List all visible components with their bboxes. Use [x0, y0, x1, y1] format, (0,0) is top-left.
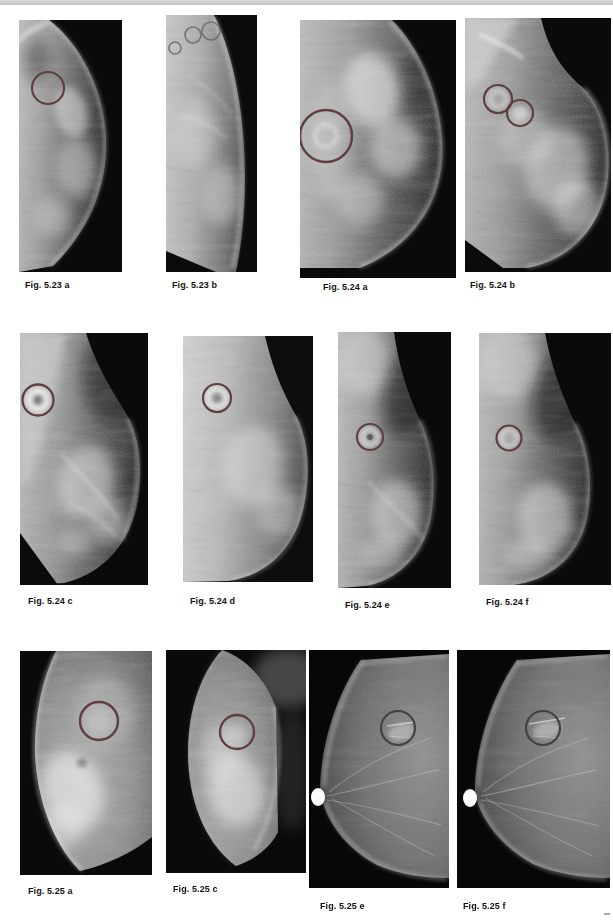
page-edge-mark	[604, 913, 610, 915]
figure-caption: Fig. 5.23 b	[172, 280, 217, 290]
figure-caption: Fig. 5.24 b	[470, 280, 515, 290]
figure-5-23b	[166, 15, 257, 272]
figure-caption: Fig. 5.25 e	[320, 901, 365, 911]
mammogram-5-24a-image	[300, 20, 456, 278]
figure-5-25a	[20, 651, 152, 875]
lesion-center	[34, 396, 42, 404]
figure-5-24c	[20, 333, 148, 585]
caption-text: Fig. 5.25 c	[173, 884, 218, 894]
caption-text: Fig. 5.25 a	[28, 886, 73, 896]
figure-caption: Fig. 5.25 c	[173, 884, 218, 894]
caption-text: Fig. 5.24 f	[486, 597, 529, 607]
mammogram-5-24b-image	[465, 18, 611, 272]
book-page: Fig. 5.23 a Fig. 5.23 b Fig. 5.24 a Fig.…	[0, 0, 613, 924]
figure-caption: Fig. 5.24 d	[190, 596, 235, 606]
figure-caption: Fig. 5.23 a	[25, 280, 70, 290]
caption-text: Fig. 5.24 c	[28, 596, 73, 606]
figure-5-25f	[457, 650, 610, 888]
mammogram-5-24e-image	[338, 332, 451, 588]
caption-text: Fig. 5.25 e	[320, 901, 365, 911]
figure-caption: Fig. 5.24 e	[345, 600, 390, 610]
lesion-center	[367, 434, 373, 440]
caption-text: Fig. 5.23 a	[25, 280, 70, 290]
caption-text: Fig. 5.25 f	[463, 901, 506, 911]
lesion-highlight	[226, 724, 248, 744]
figure-caption: Fig. 5.24 c	[28, 596, 73, 606]
figure-5-24a	[300, 20, 456, 278]
mammogram-5-24f-image	[479, 333, 611, 585]
figure-caption: Fig. 5.25 a	[28, 886, 73, 896]
mammogram-5-24c-image	[20, 333, 148, 585]
figure-caption: Fig. 5.24 f	[486, 597, 529, 607]
caption-text: Fig. 5.24 e	[345, 600, 390, 610]
lesion-highlight	[86, 708, 112, 734]
figure-5-25c	[166, 650, 306, 873]
mammogram-5-25c-image	[166, 650, 306, 873]
mammogram-5-23b-image	[166, 15, 257, 272]
nipple-marker	[463, 789, 477, 807]
figure-5-25e	[309, 650, 449, 888]
caption-text: Fig. 5.24 d	[190, 596, 235, 606]
figure-5-23a	[19, 20, 122, 272]
caption-text: Fig. 5.24 b	[470, 280, 515, 290]
mammogram-5-25a-image	[20, 651, 152, 875]
figure-5-24d	[183, 336, 313, 582]
page-top-rule	[0, 0, 613, 5]
caption-text: Fig. 5.24 a	[323, 282, 368, 292]
mammogram-5-24d-image	[183, 336, 313, 582]
caption-text: Fig. 5.23 b	[172, 280, 217, 290]
figure-5-24f	[479, 333, 611, 585]
mammogram-5-23a-image	[19, 20, 122, 272]
nipple-marker	[311, 788, 325, 806]
mammogram-5-25e-image	[309, 650, 449, 888]
figure-caption: Fig. 5.25 f	[463, 901, 506, 911]
figure-5-24e	[338, 332, 451, 588]
lesion-highlight	[512, 106, 528, 120]
mammogram-5-25f-image	[457, 650, 610, 888]
lesion-center	[213, 394, 221, 402]
figure-5-24b	[465, 18, 611, 272]
figure-caption: Fig. 5.24 a	[323, 282, 368, 292]
